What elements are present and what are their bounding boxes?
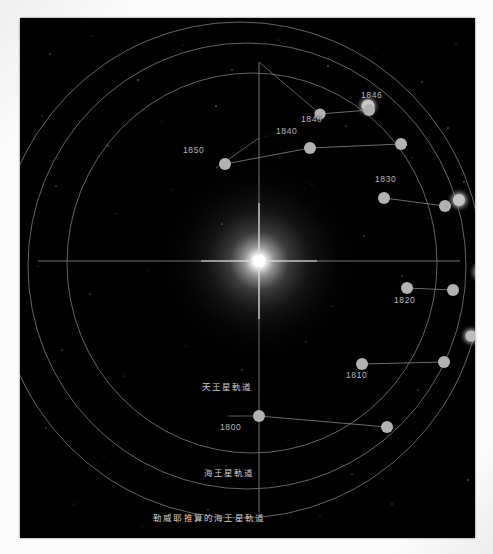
marker-1846-uranus (314, 108, 325, 119)
figure-caption: 勒威耶推算的海王星軌道 (153, 511, 265, 523)
marker-1810 (356, 358, 368, 370)
marker-1820 (401, 282, 413, 294)
figure-root: 1846 1846 1840 1850 1830 1820 1810 1800 … (0, 0, 493, 554)
marker-1830 (378, 192, 390, 204)
uranus-orbit-label: 天王星軌道 (202, 380, 253, 392)
marker-1840 (304, 142, 316, 154)
star-chart-panel: 1846 1846 1840 1850 1830 1820 1810 1800 … (20, 18, 475, 538)
neptune-orbit-label: 海王星軌道 (204, 466, 255, 478)
marker-1800 (253, 410, 265, 422)
orbit-diagram-svg (20, 18, 475, 538)
marker-1846-neptune (363, 104, 375, 116)
marker-1850 (219, 158, 231, 170)
